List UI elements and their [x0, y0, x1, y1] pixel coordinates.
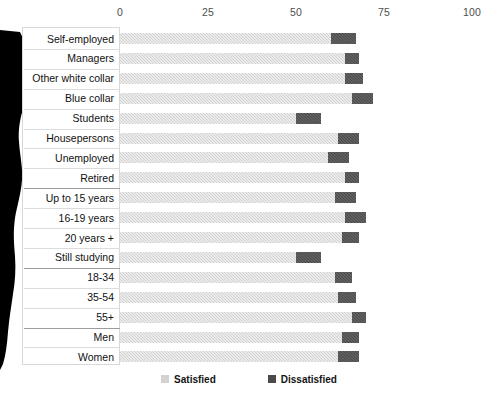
- row-divider: [24, 148, 120, 149]
- bar-segment-dissatisfied: [352, 93, 373, 104]
- bar-segment-dissatisfied: [296, 113, 321, 124]
- bar-row: [120, 351, 498, 362]
- bar-segment-dissatisfied: [345, 212, 366, 223]
- bar-segment-satisfied: [120, 312, 352, 323]
- bar-row: [120, 312, 498, 323]
- category-label-16-19-years: 16-19 years: [23, 213, 118, 224]
- category-label-up-to-15-years: Up to 15 years: [23, 193, 118, 204]
- bar-row: [120, 172, 498, 183]
- bar-segment-satisfied: [120, 292, 338, 303]
- bar-segment-satisfied: [120, 272, 335, 283]
- category-label-still-studying: Still studying: [23, 252, 118, 263]
- legend-item-dissatisfied[interactable]: Dissatisfied: [268, 374, 337, 385]
- bar-segment-satisfied: [120, 152, 328, 163]
- bar-row: [120, 232, 498, 243]
- bar-segment-satisfied: [120, 252, 296, 263]
- bar-segment-satisfied: [120, 351, 338, 362]
- x-axis-tick-50: 50: [290, 6, 302, 18]
- bar-segment-satisfied: [120, 172, 345, 183]
- category-label-other-white-collar: Other white collar: [23, 73, 118, 84]
- bar-segment-satisfied: [120, 53, 345, 64]
- x-axis-tick-25: 25: [202, 6, 214, 18]
- stacked-bar-chart: 0255075100 Self-employedManagersOther wh…: [0, 0, 498, 394]
- bar-segment-dissatisfied: [335, 192, 356, 203]
- x-axis-tick-75: 75: [378, 6, 390, 18]
- category-label-women: Women: [23, 352, 118, 363]
- legend-swatch-satisfied: [161, 375, 169, 383]
- bar-row: [120, 212, 498, 223]
- category-label-managers: Managers: [23, 53, 118, 64]
- bar-segment-satisfied: [120, 192, 335, 203]
- category-label-20-years: 20 years +: [23, 233, 118, 244]
- row-divider: [24, 208, 120, 209]
- bar-row: [120, 53, 498, 64]
- x-axis: 0255075100: [0, 0, 498, 26]
- category-label-unemployed: Unemployed: [23, 153, 118, 164]
- legend-swatch-dissatisfied: [268, 375, 276, 383]
- bar-row: [120, 252, 498, 263]
- bar-row: [120, 133, 498, 144]
- bar-segment-satisfied: [120, 33, 331, 44]
- bar-row: [120, 272, 498, 283]
- bar-row: [120, 113, 498, 124]
- row-divider: [24, 168, 120, 169]
- bar-segment-dissatisfied: [296, 252, 321, 263]
- row-divider: [24, 89, 120, 90]
- category-label-retired: Retired: [23, 173, 118, 184]
- bar-segment-satisfied: [120, 232, 342, 243]
- bar-segment-satisfied: [120, 332, 342, 343]
- bar-segment-dissatisfied: [345, 53, 359, 64]
- row-divider: [24, 228, 120, 229]
- category-label-housepersons: Housepersons: [23, 133, 118, 144]
- bar-segment-dissatisfied: [328, 152, 349, 163]
- bar-segment-dissatisfied: [338, 133, 359, 144]
- chart-legend: SatisfiedDissatisfied: [0, 369, 498, 389]
- category-label-self-employed: Self-employed: [23, 34, 118, 45]
- bar-segment-dissatisfied: [338, 351, 359, 362]
- bar-row: [120, 33, 498, 44]
- row-divider: [24, 248, 120, 249]
- row-divider: [24, 288, 120, 289]
- legend-item-satisfied[interactable]: Satisfied: [161, 374, 216, 385]
- group-divider: [24, 188, 120, 189]
- legend-label: Satisfied: [174, 374, 216, 385]
- category-label-blue-collar: Blue collar: [23, 93, 118, 104]
- bar-segment-dissatisfied: [345, 73, 363, 84]
- bar-row: [120, 292, 498, 303]
- category-label-18-34: 18-34: [23, 272, 118, 283]
- category-label-panel: Self-employedManagersOther white collarB…: [22, 27, 120, 365]
- group-divider: [24, 268, 120, 269]
- bar-row: [120, 73, 498, 84]
- category-label-55: 55+: [23, 312, 118, 323]
- bar-segment-satisfied: [120, 133, 338, 144]
- bar-row: [120, 192, 498, 203]
- bar-segment-dissatisfied: [342, 332, 360, 343]
- x-axis-tick-100: 100: [463, 6, 481, 18]
- row-divider: [24, 129, 120, 130]
- category-label-35-54: 35-54: [23, 292, 118, 303]
- bar-segment-dissatisfied: [342, 232, 360, 243]
- row-divider: [24, 49, 120, 50]
- bar-segment-satisfied: [120, 113, 296, 124]
- row-divider: [24, 109, 120, 110]
- bar-segment-dissatisfied: [335, 272, 353, 283]
- bar-row: [120, 152, 498, 163]
- bar-segment-dissatisfied: [352, 312, 366, 323]
- bar-row: [120, 93, 498, 104]
- bar-segment-dissatisfied: [331, 33, 356, 44]
- legend-label: Dissatisfied: [281, 374, 337, 385]
- category-label-men: Men: [23, 332, 118, 343]
- bar-segment-dissatisfied: [345, 172, 359, 183]
- x-axis-tick-0: 0: [117, 6, 123, 18]
- bar-segment-satisfied: [120, 212, 345, 223]
- bar-segment-satisfied: [120, 73, 345, 84]
- bar-row: [120, 332, 498, 343]
- row-divider: [24, 347, 120, 348]
- bar-segment-dissatisfied: [338, 292, 356, 303]
- group-divider: [24, 328, 120, 329]
- row-divider: [24, 69, 120, 70]
- row-divider: [24, 308, 120, 309]
- bar-segment-satisfied: [120, 93, 352, 104]
- plot-area: [120, 27, 498, 365]
- category-label-students: Students: [23, 113, 118, 124]
